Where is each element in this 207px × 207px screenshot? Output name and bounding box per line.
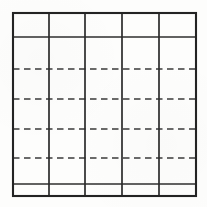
cell-r7c1[interactable] xyxy=(13,184,49,196)
cell-r7c4[interactable] xyxy=(122,184,159,196)
cell-r2c5[interactable] xyxy=(159,37,196,69)
cell-r7c2[interactable] xyxy=(49,184,85,196)
cell-r2c3[interactable] xyxy=(85,37,122,69)
cell-r3c3[interactable] xyxy=(85,69,122,99)
cell-r6c1[interactable] xyxy=(13,158,49,184)
cell-layer[interactable] xyxy=(13,13,196,196)
cell-r1c2[interactable] xyxy=(49,13,85,37)
cell-r6c5[interactable] xyxy=(159,158,196,184)
cell-r6c2[interactable] xyxy=(49,158,85,184)
cell-r2c4[interactable] xyxy=(122,37,159,69)
cell-r5c3[interactable] xyxy=(85,129,122,158)
cell-r4c4[interactable] xyxy=(122,99,159,129)
cell-r4c5[interactable] xyxy=(159,99,196,129)
cell-r1c4[interactable] xyxy=(122,13,159,37)
cell-r1c5[interactable] xyxy=(159,13,196,37)
blank-table-grid[interactable] xyxy=(0,0,207,207)
figure-canvas xyxy=(0,0,207,207)
cell-r3c2[interactable] xyxy=(49,69,85,99)
cell-r6c3[interactable] xyxy=(85,158,122,184)
cell-r2c2[interactable] xyxy=(49,37,85,69)
grid-drawing xyxy=(0,0,207,207)
cell-r3c5[interactable] xyxy=(159,69,196,99)
cell-r6c4[interactable] xyxy=(122,158,159,184)
cell-r4c3[interactable] xyxy=(85,99,122,129)
cell-r4c2[interactable] xyxy=(49,99,85,129)
cell-r1c3[interactable] xyxy=(85,13,122,37)
cell-r7c3[interactable] xyxy=(85,184,122,196)
cell-r1c1[interactable] xyxy=(13,13,49,37)
cell-r4c1[interactable] xyxy=(13,99,49,129)
cell-r5c4[interactable] xyxy=(122,129,159,158)
cell-r2c1[interactable] xyxy=(13,37,49,69)
cell-r3c4[interactable] xyxy=(122,69,159,99)
cell-r5c1[interactable] xyxy=(13,129,49,158)
cell-r5c2[interactable] xyxy=(49,129,85,158)
cell-r5c5[interactable] xyxy=(159,129,196,158)
cell-r3c1[interactable] xyxy=(13,69,49,99)
cell-r7c5[interactable] xyxy=(159,184,196,196)
